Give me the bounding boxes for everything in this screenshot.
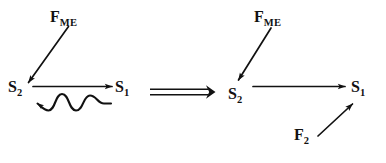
implies-symbol-glyph: [150, 85, 216, 99]
reaction-scheme-diagram: FME S2 S1 FME S2 S1 F2: [0, 0, 386, 163]
left-state-s2-subscript: 2: [17, 87, 22, 98]
right-force-f2-subscript: 2: [304, 135, 309, 146]
right-state-s2-label: S2: [228, 86, 242, 102]
right-state-s1-subscript: 1: [360, 87, 365, 98]
left-state-s1-label: S1: [115, 79, 129, 95]
left-s1-to-s2-wavy-arrow: [38, 94, 112, 111]
right-force-me-base: F: [254, 8, 264, 25]
right-force-f2-base: F: [294, 126, 304, 143]
left-state-s1-subscript: 1: [124, 87, 129, 98]
right-fme-to-s2-arrow: [239, 28, 272, 80]
right-state-s1-label: S1: [351, 79, 365, 95]
left-fme-to-s2-arrow: [29, 27, 69, 83]
left-state-s2-base: S: [8, 78, 17, 95]
left-state-s1-base: S: [115, 78, 124, 95]
right-force-me-label: FME: [254, 9, 281, 25]
right-state-s2-base: S: [228, 85, 237, 102]
right-state-s1-base: S: [351, 78, 360, 95]
right-f2-to-s1-arrow: [318, 104, 353, 136]
left-force-me-label: FME: [50, 9, 77, 25]
right-force-f2-label: F2: [294, 127, 309, 143]
left-force-me-base: F: [50, 8, 60, 25]
left-state-s2-label: S2: [8, 79, 22, 95]
right-state-s2-subscript: 2: [237, 94, 242, 105]
right-force-me-subscript: ME: [264, 17, 281, 28]
left-force-me-subscript: ME: [60, 17, 77, 28]
